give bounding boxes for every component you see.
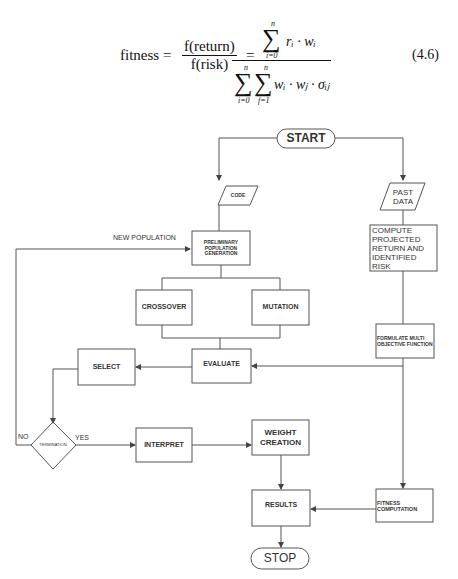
select-node: SELECT [78, 349, 135, 385]
preliminary-node: PRELIMINARY POPULATION GENERATION [194, 232, 248, 265]
termination-node: TERMINATION [30, 440, 76, 450]
results-node: RESULTS [252, 490, 310, 520]
formulate-node: FORMULATE MULTI OBJECTIVE FUNCTION [377, 325, 434, 358]
interpret-node: INTERPRET [136, 428, 192, 462]
yes-label: YES [75, 433, 97, 443]
compute-node: COMPUTE PROJECTED RETURN AND IDENTIFIED … [372, 226, 436, 271]
code-node: CODE [218, 186, 258, 205]
fitness-computation-node: FITNESS COMPUTATION [377, 490, 433, 522]
start-node: START [277, 129, 335, 148]
weight-creation-node: WEIGHT CREATION [252, 420, 309, 455]
no-label: NO [18, 432, 36, 442]
stop-node: STOP [251, 548, 309, 569]
crossover-node: CROSSOVER [136, 290, 192, 325]
evaluate-node: EVALUATE [192, 349, 251, 379]
new-population-label: NEW POPULATION [113, 232, 193, 244]
mutation-node: MUTATION [252, 290, 309, 325]
past-data-node: PAST DATA [384, 184, 422, 210]
